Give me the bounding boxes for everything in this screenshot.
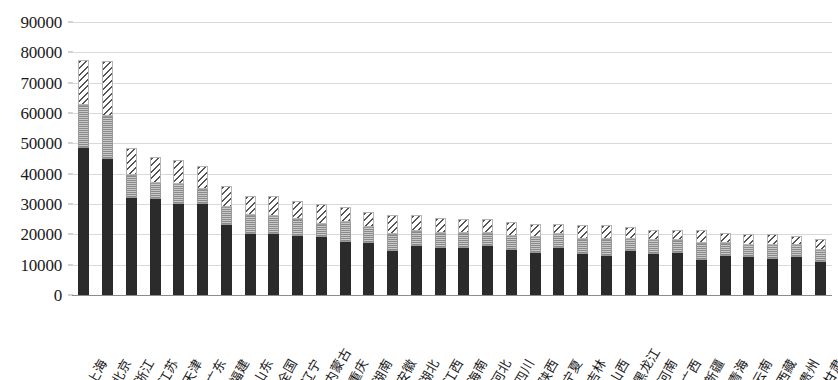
bar-column bbox=[618, 22, 642, 295]
bar-column bbox=[167, 22, 191, 295]
bar-segment-series-1 bbox=[553, 248, 564, 295]
x-axis-tick-label: 上海 bbox=[85, 357, 110, 380]
x-axis-tick-label: 福建 bbox=[227, 357, 252, 380]
bar-segment-series-2 bbox=[648, 240, 659, 254]
y-axis-tick-label: 10000 bbox=[20, 256, 62, 273]
x-axis-tick-label: 四川 bbox=[512, 357, 537, 380]
bar-segment-series-1 bbox=[197, 204, 208, 295]
bar-segment-series-1 bbox=[506, 250, 517, 296]
y-axis-tick-label: 90000 bbox=[20, 14, 62, 31]
bar-segment-series-1 bbox=[601, 256, 612, 295]
bar-column bbox=[96, 22, 120, 295]
bar-column bbox=[452, 22, 476, 295]
x-axis-tick-label: 甘肃 bbox=[821, 357, 838, 380]
bar-segment-series-2 bbox=[221, 207, 232, 225]
y-axis-tick-label: 50000 bbox=[20, 135, 62, 152]
bar-segment-series-3 bbox=[316, 204, 327, 224]
bar-stack bbox=[553, 224, 564, 295]
bar-stack bbox=[411, 215, 422, 295]
bar-column bbox=[120, 22, 144, 295]
bar-segment-series-2 bbox=[458, 233, 469, 248]
bar-segment-series-2 bbox=[78, 105, 89, 147]
bar-segment-series-2 bbox=[482, 233, 493, 247]
bar-segment-series-2 bbox=[245, 215, 256, 235]
bar-segment-series-1 bbox=[292, 236, 303, 295]
bar-segment-series-2 bbox=[625, 239, 636, 251]
bar-segment-series-2 bbox=[720, 243, 731, 255]
bar-segment-series-3 bbox=[268, 196, 279, 216]
bar-column bbox=[405, 22, 429, 295]
bar-segment-series-3 bbox=[78, 60, 89, 106]
bar-stack bbox=[815, 239, 826, 295]
bar-segment-series-2 bbox=[743, 245, 754, 257]
bar-stack bbox=[648, 230, 659, 295]
bar-segment-series-3 bbox=[435, 218, 446, 233]
y-axis-tick-label: 30000 bbox=[20, 196, 62, 213]
bar-segment-series-1 bbox=[363, 243, 374, 295]
bar-segment-series-1 bbox=[78, 148, 89, 295]
bar-segment-series-1 bbox=[791, 257, 802, 295]
bar-segment-series-3 bbox=[411, 215, 422, 232]
y-axis-tick-label: 80000 bbox=[20, 44, 62, 61]
bar-segment-series-3 bbox=[126, 148, 137, 175]
bar-column bbox=[713, 22, 737, 295]
bar-column bbox=[238, 22, 262, 295]
bar-stack bbox=[197, 166, 208, 295]
bar-stack bbox=[387, 215, 398, 295]
bar-stack bbox=[672, 230, 683, 295]
x-axis-tick-label: 江苏 bbox=[156, 357, 181, 380]
bar-column bbox=[666, 22, 690, 295]
bar-segment-series-2 bbox=[363, 227, 374, 244]
bar-column bbox=[262, 22, 286, 295]
bar-segment-series-3 bbox=[720, 233, 731, 244]
bar-column bbox=[785, 22, 809, 295]
bar-segment-series-2 bbox=[577, 239, 588, 254]
bar-stack bbox=[363, 212, 374, 295]
x-axis-tick-label: 安徽 bbox=[394, 357, 419, 380]
bar-column bbox=[761, 22, 785, 295]
bar-segment-series-1 bbox=[411, 246, 422, 295]
bar-segment-series-2 bbox=[387, 234, 398, 251]
bar-column bbox=[737, 22, 761, 295]
bar-column bbox=[72, 22, 96, 295]
bar-column bbox=[642, 22, 666, 295]
bar-segment-series-1 bbox=[268, 234, 279, 295]
x-axis-tick-label: 广东 bbox=[204, 357, 229, 380]
bar-segment-series-1 bbox=[625, 251, 636, 295]
bar-segment-series-1 bbox=[102, 159, 113, 296]
bar-segment-series-2 bbox=[601, 239, 612, 256]
bar-segment-series-1 bbox=[435, 248, 446, 295]
bar-segment-series-2 bbox=[767, 245, 778, 259]
bar-segment-series-3 bbox=[245, 196, 256, 214]
y-axis-tick-label: 70000 bbox=[20, 74, 62, 91]
bar-stack bbox=[102, 61, 113, 295]
x-axis-tick-label: 江西 bbox=[441, 357, 466, 380]
x-axis-tick-label: 海南 bbox=[465, 357, 490, 380]
x-axis-tick-label: 山东 bbox=[251, 357, 276, 380]
x-axis-tick-label: 云南 bbox=[750, 357, 775, 380]
bar-segment-series-2 bbox=[815, 250, 826, 262]
bar-stack bbox=[696, 230, 707, 295]
bar-segment-series-1 bbox=[743, 257, 754, 295]
bar-stack bbox=[126, 148, 137, 295]
bar-column bbox=[571, 22, 595, 295]
bar-segment-series-1 bbox=[245, 234, 256, 295]
bar-segment-series-3 bbox=[197, 166, 208, 189]
x-axis-tick-label: 吉林 bbox=[584, 357, 609, 380]
bar-segment-series-3 bbox=[221, 186, 232, 207]
bar-segment-series-1 bbox=[720, 256, 731, 295]
bar-segment-series-2 bbox=[173, 184, 184, 204]
x-axis-tick-label: 西藏 bbox=[774, 357, 799, 380]
bar-stack bbox=[221, 186, 232, 295]
bar-stack bbox=[577, 225, 588, 295]
bar-segment-series-3 bbox=[173, 160, 184, 184]
bar-segment-series-3 bbox=[292, 201, 303, 219]
x-axis: 上海北京浙江江苏天津广东福建山东全国辽宁内蒙古重庆湖南安徽湖北江西海南河北四川陕… bbox=[72, 296, 832, 380]
bar-segment-series-1 bbox=[815, 262, 826, 295]
bar-series-group bbox=[72, 22, 832, 295]
bar-segment-series-3 bbox=[648, 230, 659, 241]
bar-segment-series-2 bbox=[696, 243, 707, 260]
bar-segment-series-3 bbox=[672, 230, 683, 241]
bar-segment-series-2 bbox=[150, 183, 161, 200]
x-axis-tick-label: 贵州 bbox=[797, 357, 822, 380]
